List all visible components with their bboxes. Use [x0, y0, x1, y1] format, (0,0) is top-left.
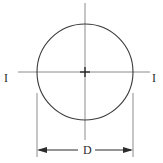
arrowhead-right-icon	[123, 147, 133, 153]
diameter-label: D	[80, 144, 95, 156]
diagram-canvas: I I D	[0, 0, 163, 163]
diagram-vector-layer	[0, 0, 163, 163]
center-cross-icon	[80, 67, 90, 77]
section-label-right: I	[152, 72, 156, 84]
arrowhead-left-icon	[37, 147, 47, 153]
section-label-left: I	[4, 72, 8, 84]
